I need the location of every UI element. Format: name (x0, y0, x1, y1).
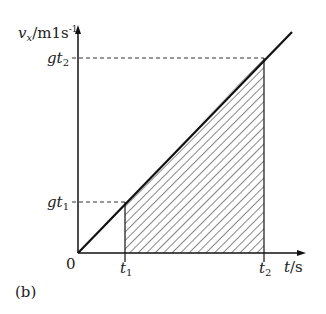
y-tick-gt2: gt2 (47, 49, 69, 68)
x-tick-t2: t2 (259, 259, 271, 278)
x-tick-t1: t1 (120, 259, 132, 278)
y-axis-label: vx/m1s-1 (18, 24, 77, 43)
x-axis-label: t/s (284, 258, 303, 276)
origin-label: 0 (66, 255, 76, 273)
x-axis-arrow-icon (297, 250, 306, 256)
panel-label: (b) (15, 283, 36, 301)
y-tick-gt1: gt1 (47, 193, 69, 212)
velocity-time-diagram: vx/m1s-1 gt2 gt1 0 t1 t2 t/s (b) (0, 0, 326, 314)
shaded-area (125, 58, 264, 253)
